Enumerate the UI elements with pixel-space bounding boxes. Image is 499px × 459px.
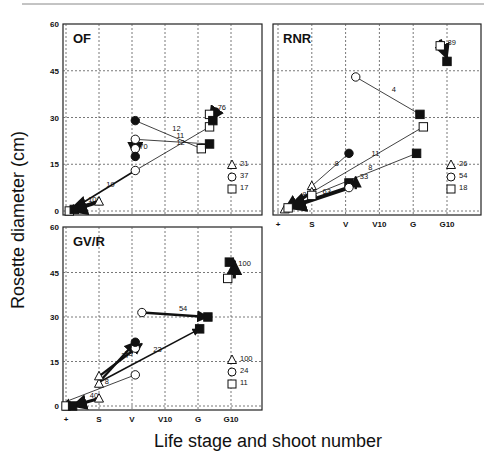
y-tick-label: 60 [50, 223, 59, 232]
circle-marker [138, 308, 146, 316]
panel-title: OF [73, 31, 91, 46]
x-tick-label: G10 [223, 415, 239, 424]
panels: 015304560OF100191211127076213717+SVV10GG… [50, 20, 481, 424]
y-tick-label: 45 [50, 269, 59, 278]
circle-marker [345, 183, 353, 191]
square-marker [197, 144, 205, 152]
arrow-label: 89 [448, 38, 456, 47]
circle-marker [131, 144, 139, 152]
arrow-label: 33 [360, 172, 368, 181]
x-tick-label: G10 [439, 220, 455, 229]
arrow-label: 54 [179, 304, 187, 313]
circle-marker [131, 338, 139, 346]
circle-marker [352, 73, 360, 81]
square-marker [70, 205, 78, 213]
x-tick-label: + [64, 415, 69, 424]
legend-label: 18 [459, 183, 467, 192]
y-axis-label: Rosette diameter (cm) [8, 131, 28, 309]
panel-gvr: 015304560+SVV10GG10GV/R40837382354100100… [50, 223, 262, 424]
arrow-label: 23 [153, 345, 161, 354]
circle-marker [131, 152, 139, 160]
y-tick-label: 15 [50, 160, 59, 169]
square-marker [308, 191, 316, 199]
panel-of: 015304560OF100191211127076213717 [50, 20, 262, 216]
legend-circle-icon [228, 368, 236, 376]
x-tick-label: G [410, 220, 416, 229]
square-marker [284, 204, 292, 212]
x-tick-label: S [309, 220, 315, 229]
square-marker [412, 149, 420, 157]
legend-label: 26 [459, 159, 467, 168]
arrow-label: 100 [238, 259, 251, 268]
arrow-label: 8 [334, 159, 338, 168]
arrow-label: 11 [372, 149, 380, 158]
y-tick-label: 0 [55, 402, 60, 411]
y-tick-label: 15 [50, 358, 59, 367]
square-marker [443, 57, 451, 65]
square-marker [209, 116, 217, 124]
arrow-label: 12 [172, 124, 180, 133]
legend-square-icon [447, 185, 455, 193]
circle-marker [131, 135, 139, 143]
y-tick-label: 45 [50, 67, 59, 76]
square-marker [419, 123, 427, 131]
panel-title: GV/R [73, 234, 105, 249]
x-tick-label: V10 [372, 220, 387, 229]
y-tick-label: 30 [50, 313, 59, 322]
legend-label: 54 [459, 171, 467, 180]
x-tick-label: S [96, 415, 102, 424]
x-tick-label: V [129, 415, 135, 424]
y-tick-label: 30 [50, 114, 59, 123]
circle-marker [131, 166, 139, 174]
legend-label: 37 [240, 171, 248, 180]
legend-label: 11 [240, 378, 248, 387]
x-tick-label: G [195, 415, 201, 424]
square-marker [205, 140, 213, 148]
arrow-label: 4 [392, 85, 396, 94]
y-tick-label: 60 [50, 20, 59, 29]
y-tick-label: 0 [55, 207, 60, 216]
circle-marker [131, 116, 139, 124]
square-marker [224, 274, 232, 282]
legend-square-icon [228, 185, 236, 193]
x-tick-label: + [276, 220, 281, 229]
square-marker [204, 313, 212, 321]
arrow-label: 70 [139, 142, 147, 151]
square-marker [195, 325, 203, 333]
arrow-label: 76 [218, 103, 226, 112]
legend-label: 24 [240, 366, 248, 375]
panel-rnr: +SVV10GG10RNR8463811843389265418 [273, 24, 481, 229]
legend-square-icon [228, 380, 236, 388]
square-marker [416, 110, 424, 118]
panel-title: RNR [283, 31, 312, 46]
legend-label: 100 [240, 354, 253, 363]
figure: 015304560OF100191211127076213717+SVV10GG… [0, 0, 499, 459]
circle-marker [131, 371, 139, 379]
square-marker [68, 402, 76, 410]
arrow-label: 8 [368, 163, 372, 172]
legend-circle-icon [228, 173, 236, 181]
square-marker [225, 258, 233, 266]
x-tick-label: V10 [158, 415, 173, 424]
square-marker [436, 42, 444, 50]
arrow-label: 19 [106, 180, 114, 189]
legend-label: 17 [240, 183, 248, 192]
x-tick-label: V [343, 220, 349, 229]
circle-marker [345, 149, 353, 157]
legend-circle-icon [447, 173, 455, 181]
legend-label: 21 [240, 159, 248, 168]
x-axis-label: Life stage and shoot number [154, 431, 382, 451]
